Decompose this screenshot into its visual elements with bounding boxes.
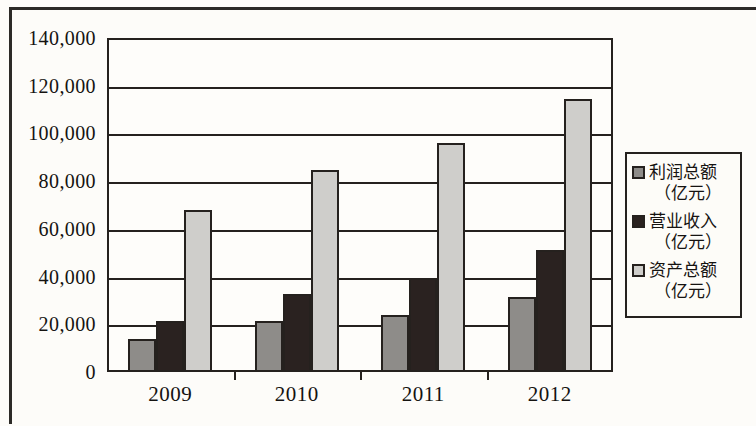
- legend-swatch-icon: [632, 264, 645, 277]
- y-axis-tick-label: 100,000: [28, 122, 96, 145]
- y-axis-tick-label: 60,000: [39, 217, 96, 240]
- bar: [536, 250, 564, 372]
- y-axis-labels: 140,000120,000100,00080,00060,00040,0002…: [0, 0, 104, 426]
- legend-entry: 利润总额（亿元）: [632, 159, 736, 207]
- bar: [311, 170, 339, 372]
- bar: [564, 99, 592, 372]
- x-axis-category-label: 2009: [148, 382, 192, 407]
- x-axis-category-label: 2011: [402, 382, 445, 407]
- bar: [283, 294, 311, 372]
- legend-series-name: 资产总额: [649, 262, 717, 279]
- x-axis-tick: [360, 372, 362, 380]
- bar: [508, 297, 536, 372]
- legend-series-name: 营业收入: [649, 213, 717, 230]
- chart-screenshot: 140,000120,000100,00080,00060,00040,0002…: [0, 0, 756, 426]
- bar: [437, 143, 465, 372]
- x-axis-category-label: 2012: [528, 382, 572, 407]
- image-outer-border-top: [9, 7, 756, 10]
- legend-swatch-icon: [632, 166, 645, 179]
- legend-series-name: 利润总额: [649, 164, 717, 181]
- bar: [128, 339, 156, 372]
- y-axis-tick-label: 0: [86, 361, 96, 384]
- bar: [255, 321, 283, 372]
- y-axis-tick-label: 80,000: [39, 170, 96, 193]
- x-axis-tick: [487, 372, 489, 380]
- legend-series-unit: （亿元）: [632, 185, 736, 207]
- bar: [184, 210, 212, 372]
- y-axis-tick-label: 120,000: [28, 74, 96, 97]
- bar: [409, 278, 437, 372]
- y-axis-tick-label: 20,000: [39, 313, 96, 336]
- legend-entry: 营业收入（亿元）: [632, 208, 736, 256]
- x-axis-category-label: 2010: [275, 382, 319, 407]
- bar: [156, 321, 184, 372]
- bar: [381, 315, 409, 372]
- legend-swatch-icon: [632, 215, 645, 228]
- y-axis-tick-label: 140,000: [28, 27, 96, 50]
- legend-series-unit: （亿元）: [632, 234, 736, 256]
- legend-series-unit: （亿元）: [632, 283, 736, 305]
- x-axis-tick: [234, 372, 236, 380]
- bars-layer: [107, 38, 613, 372]
- chart-legend: 利润总额（亿元）营业收入（亿元）资产总额（亿元）: [625, 152, 742, 318]
- y-axis-tick-label: 40,000: [39, 265, 96, 288]
- legend-entry: 资产总额（亿元）: [632, 257, 736, 305]
- x-axis-labels: 2009201020112012: [107, 382, 613, 416]
